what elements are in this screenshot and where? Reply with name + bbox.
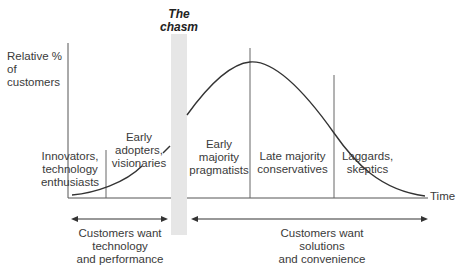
segment-innovators: Innovators, technology enthusiasts (36, 150, 104, 189)
segment-line: skeptics (335, 163, 400, 176)
segment-line: Late majority (251, 150, 334, 163)
segment-late-majority: Late majority conservatives (251, 150, 334, 176)
arrow-solutions-left-head (191, 216, 198, 222)
bottom-label-line: and performance (70, 253, 170, 266)
bottom-label-line: solutions (262, 240, 382, 253)
arrow-solutions-right-head (421, 216, 428, 222)
arrow-technology-left-head (71, 216, 78, 222)
y-axis-label: Relative % of customers (7, 50, 67, 89)
bottom-label-technology: Customers want technology and performanc… (70, 227, 170, 266)
segment-line: visionaries (107, 157, 171, 170)
segment-laggards: Laggards, skeptics (335, 150, 400, 176)
segment-line: Early (107, 131, 171, 144)
bottom-label-line: Customers want (262, 227, 382, 240)
x-axis-label: Time (430, 190, 460, 203)
chasm-band (171, 34, 187, 235)
segment-line: majority (188, 151, 250, 164)
bottom-label-line: technology (70, 240, 170, 253)
segment-early-majority: Early majority pragmatists (188, 138, 250, 177)
segment-line: technology (36, 163, 104, 176)
y-axis-label-text: Relative % of customers (7, 50, 67, 89)
segment-early-adopters: Early adopters, visionaries (107, 131, 171, 170)
segment-line: conservatives (251, 163, 334, 176)
bottom-label-solutions: Customers want solutions and convenience (262, 227, 382, 266)
segment-line: Laggards, (335, 150, 400, 163)
segment-line: pragmatists (188, 164, 250, 177)
chasm-title: The chasm (158, 8, 200, 34)
segment-line: enthusiasts (36, 176, 104, 189)
chasm-title-line-2: chasm (158, 21, 200, 34)
segment-line: adopters, (107, 144, 171, 157)
arrow-technology-right-head (161, 216, 168, 222)
bottom-label-line: and convenience (262, 253, 382, 266)
segment-line: Early (188, 138, 250, 151)
bottom-label-line: Customers want (70, 227, 170, 240)
segment-line: Innovators, (36, 150, 104, 163)
